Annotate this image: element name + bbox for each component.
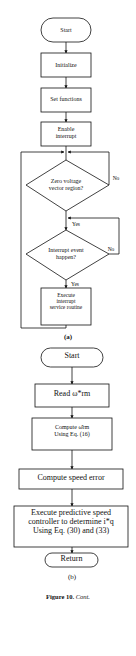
b-return-terminal: Return [45,555,98,564]
figure-caption: Figure 10. Cont. [0,593,136,600]
a-execute-isr-box: Execute interrupt service routine [41,292,91,310]
a-event-no-label: No [105,246,117,252]
b-read-box: Read ω*rm [35,390,109,399]
a-initialize-box: Initialize [41,62,91,69]
a-interrupt-event-decision: Interrupt event happen? [30,247,102,260]
a-enable-interrupt-box: Enable interrupt [41,126,91,139]
b-start-terminal: Start [41,352,103,361]
a-event-yes-label: Yes [68,281,82,287]
a-zero-yes-label: Yes [69,221,83,227]
a-subfigure-label: (a) [56,333,80,341]
a-zero-voltage-decision: Zero voltage vector region? [30,178,102,191]
a-zero-no-label: No [110,175,122,181]
figure-cont: Cont. [76,593,90,600]
b-compute-error-box: Compute speed error [19,474,123,483]
b-compute-estimate-box: Compute ω̂rm Using Eq. (16) [32,424,112,437]
a-start-terminal: Start [41,27,91,34]
a-set-functions-box: Set functions [41,96,91,103]
figure-number: Figure 10. [46,593,74,600]
b-subfigure-label: (b) [60,573,84,581]
b-execute-controller-box: Execute predictive speed controller to d… [14,509,128,535]
